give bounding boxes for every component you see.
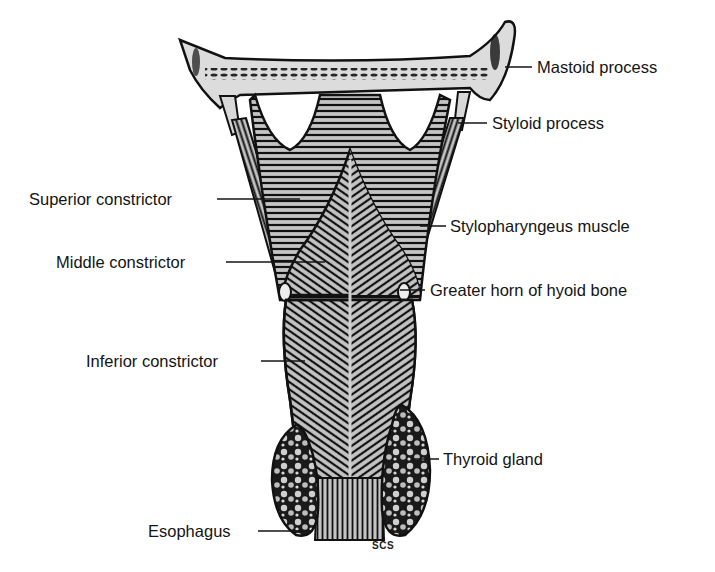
label-thyroid-gland: Thyroid gland [443, 450, 543, 468]
hyoid-horn-right [398, 283, 410, 301]
hyoid-horn-left [279, 283, 291, 301]
label-greater-horn-hyoid: Greater horn of hyoid bone [430, 281, 627, 299]
label-esophagus: Esophagus [148, 522, 231, 540]
label-inferior-constrictor: Inferior constrictor [86, 352, 218, 370]
artist-signature: SCS [372, 540, 394, 551]
anatomy-figure: Mastoid process Styloid process Stylopha… [0, 0, 715, 572]
label-middle-constrictor: Middle constrictor [56, 253, 185, 271]
label-stylopharyngeus-muscle: Stylopharyngeus muscle [450, 217, 630, 235]
label-superior-constrictor: Superior constrictor [29, 190, 172, 208]
esophagus-tube [315, 478, 384, 540]
label-styloid-process: Styloid process [492, 114, 604, 132]
label-mastoid-process: Mastoid process [537, 58, 657, 76]
